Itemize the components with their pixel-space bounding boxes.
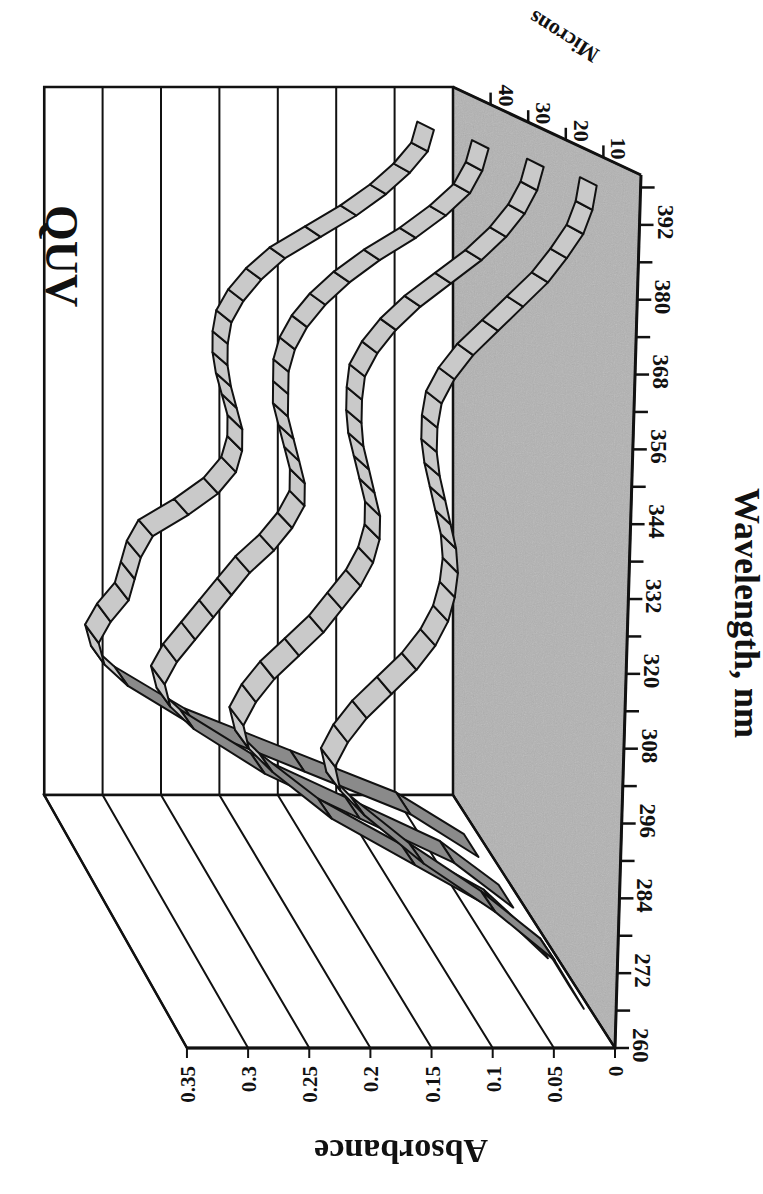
x-tick-label: 344 — [644, 504, 669, 539]
x-tick-label: 308 — [637, 729, 662, 764]
x-tick-label: 260 — [628, 1028, 653, 1063]
x-axis-label: Wavelength, nm — [726, 488, 763, 738]
x-tick-label: 380 — [650, 280, 675, 315]
absorbance-3d-ribbon-chart: 00.050.10.150.20.250.30.3526027228429630… — [0, 0, 763, 1194]
x-tick-label: 332 — [641, 579, 666, 614]
x-tick-label: 356 — [646, 429, 671, 464]
x-tick-label: 320 — [639, 654, 664, 689]
y-tick-label: 0.15 — [421, 1066, 445, 1103]
y-tick-label: 0.1 — [482, 1066, 506, 1092]
y-tick-label: 0.35 — [176, 1066, 200, 1103]
x-tick-label: 272 — [630, 953, 655, 988]
z-tick-label: 30 — [531, 102, 556, 124]
x-tick-label: 368 — [648, 355, 673, 390]
y-tick-label: 0.3 — [237, 1066, 261, 1092]
chart-title: QUV — [35, 205, 88, 307]
y-tick-label: 0.25 — [298, 1066, 322, 1103]
z-tick-label: 20 — [569, 120, 594, 142]
x-tick-label: 284 — [632, 878, 657, 913]
x-tick-label: 392 — [653, 205, 678, 240]
y-tick-label: 0 — [604, 1066, 628, 1077]
z-tick-label: 10 — [606, 137, 631, 159]
x-tick-label: 296 — [635, 804, 660, 839]
z-tick-label: 40 — [494, 85, 519, 107]
y-tick-label: 0.05 — [543, 1066, 567, 1103]
y-axis-label: Absorbance — [314, 1132, 488, 1170]
y-tick-label: 0.2 — [359, 1066, 383, 1092]
